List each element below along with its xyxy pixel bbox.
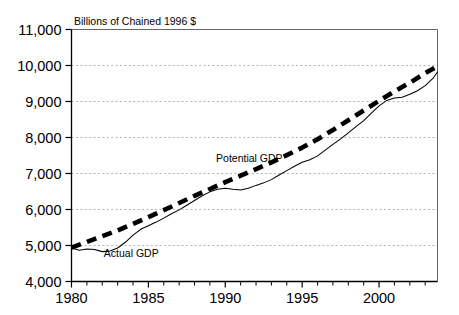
chart-subtitle: Billions of Chained 1996 $	[74, 15, 196, 27]
gdp-chart: 4,0005,0006,0007,0008,0009,00010,00011,0…	[0, 0, 459, 315]
y-tick-label-9000: 9,000	[25, 94, 61, 110]
x-tick-label-1980: 1980	[55, 290, 87, 306]
y-tick-label-4000: 4,000	[25, 274, 61, 290]
y-tick-label-7000: 7,000	[25, 166, 61, 182]
x-tick-label-1990: 1990	[209, 290, 241, 306]
y-axis-ticks	[66, 30, 72, 282]
y-tick-label-6000: 6,000	[25, 202, 61, 218]
actual-gdp-label: Actual GDP	[104, 247, 159, 259]
x-tick-label-1985: 1985	[132, 290, 164, 306]
y-tick-label-8000: 8,000	[25, 130, 61, 146]
y-tick-label-11000: 11,000	[18, 22, 61, 38]
y-tick-label-10000: 10,000	[17, 58, 61, 74]
y-tick-label-5000: 5,000	[25, 238, 61, 254]
x-axis-tick-labels: 19801985199019952000	[55, 290, 395, 306]
y-axis-tick-labels: 4,0005,0006,0007,0008,0009,00010,00011,0…	[17, 22, 61, 290]
x-tick-label-2000: 2000	[363, 290, 395, 306]
chart-canvas: 4,0005,0006,0007,0008,0009,00010,00011,0…	[0, 0, 459, 315]
x-tick-label-1995: 1995	[286, 290, 318, 306]
x-axis-ticks	[72, 282, 426, 288]
potential-gdp-label: Potential GDP	[216, 152, 283, 164]
